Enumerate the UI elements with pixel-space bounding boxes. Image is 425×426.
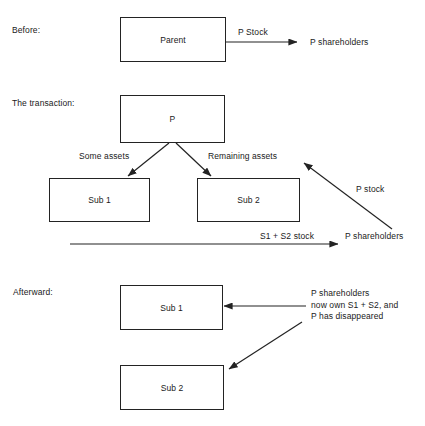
node-p-label: P [170, 114, 176, 124]
section-title-transaction: The transaction: [12, 98, 75, 108]
annotation-afterward: P shareholders now own S1 + S2, and P ha… [311, 288, 398, 323]
node-sub2-afterward-label: Sub 2 [161, 383, 184, 393]
node-sub2-transaction-label: Sub 2 [237, 195, 260, 205]
label-p-shareholders-transaction: P shareholders [345, 231, 403, 243]
arrow-annotation-to-sub2 [229, 322, 302, 369]
annotation-line-3: P has disappeared [311, 311, 398, 323]
label-some-assets: Some assets [79, 151, 129, 163]
node-parent-box[interactable]: Parent [120, 17, 226, 62]
annotation-line-2: now own S1 + S2, and [311, 300, 398, 312]
node-parent-label: Parent [160, 35, 186, 45]
section-title-afterward: Afterward: [13, 287, 53, 297]
node-sub2-transaction-box[interactable]: Sub 2 [197, 178, 300, 222]
node-sub1-transaction-box[interactable]: Sub 1 [49, 178, 150, 222]
arrow-p-stock-diagonal [304, 163, 392, 229]
label-p-shareholders-before: P shareholders [310, 37, 368, 49]
section-title-before: Before: [12, 25, 40, 35]
node-sub1-afterward-label: Sub 1 [160, 303, 183, 313]
label-p-stock-transaction: P stock [356, 184, 384, 196]
arrow-p-to-sub2 [176, 143, 211, 176]
arrow-p-to-sub1 [128, 143, 169, 176]
label-s1-s2-stock: S1 + S2 stock [260, 231, 314, 243]
diagram-canvas: Before: The transaction: Afterward: Pare… [0, 0, 425, 426]
node-sub2-afterward-box[interactable]: Sub 2 [120, 365, 224, 410]
label-p-stock-before: P Stock [238, 27, 268, 39]
node-p-box[interactable]: P [120, 95, 225, 143]
node-sub1-transaction-label: Sub 1 [88, 195, 111, 205]
node-sub1-afterward-box[interactable]: Sub 1 [120, 285, 223, 330]
label-remaining-assets: Remaining assets [208, 151, 277, 163]
annotation-line-1: P shareholders [311, 288, 398, 300]
